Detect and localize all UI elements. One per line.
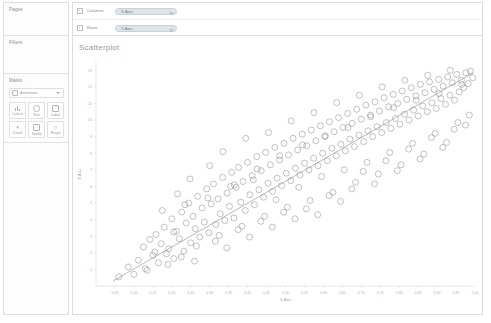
data-point [188, 240, 194, 246]
data-point [295, 147, 301, 153]
mark-type-dropdown[interactable]: Automatic [9, 88, 64, 98]
data-point [131, 271, 137, 277]
x-tick-label: 0.40 [244, 291, 251, 295]
data-point [431, 86, 437, 92]
data-point [356, 92, 362, 98]
marks-detail-button[interactable]: ▾ Detail [9, 121, 26, 138]
data-point [226, 203, 232, 209]
data-point [360, 169, 366, 175]
data-point [417, 81, 423, 87]
data-point [399, 88, 405, 94]
columns-shelf[interactable]: Columns X-Axis [73, 3, 482, 20]
data-point [205, 195, 211, 201]
data-point [330, 189, 336, 195]
data-point [267, 162, 273, 168]
data-point [165, 261, 171, 267]
data-point [206, 230, 212, 236]
columns-shelf-icon [77, 8, 83, 14]
marks-label-button[interactable]: Label [47, 102, 64, 119]
data-point [390, 91, 396, 97]
data-point [247, 234, 253, 240]
marks-panel-title: Marks [4, 74, 68, 84]
data-point [288, 118, 294, 124]
data-point [333, 153, 339, 159]
x-tick-label: 0.20 [168, 291, 175, 295]
data-point [159, 208, 165, 214]
data-point [265, 130, 271, 136]
data-point [397, 121, 403, 127]
data-point [383, 158, 389, 164]
x-tick-label: 0.60 [320, 291, 327, 295]
data-point [336, 115, 342, 121]
data-point [349, 186, 355, 192]
data-point [470, 75, 476, 81]
data-point [363, 102, 369, 108]
marks-size-button[interactable]: Size [28, 102, 45, 119]
x-tick-label: 0.05 [111, 291, 118, 295]
filters-panel[interactable]: Filters [4, 36, 68, 74]
marks-size-label: Size [33, 113, 40, 117]
marks-shape-button[interactable]: ◇ Shape [47, 121, 64, 138]
data-point [311, 110, 317, 116]
data-point [424, 109, 430, 115]
pill-y-axis-label: Y-Axis [121, 25, 132, 32]
data-point [402, 77, 408, 83]
data-point [463, 122, 469, 128]
data-point [204, 186, 210, 192]
rows-shelf[interactable]: Rows Y-Axis [73, 20, 482, 36]
data-point [444, 139, 450, 145]
data-point [420, 103, 426, 109]
marks-tooltip-button[interactable]: Tooltip [28, 121, 45, 138]
data-point [161, 224, 167, 230]
data-point [370, 134, 376, 140]
y-tick-label: 4 [90, 218, 92, 222]
data-point [178, 254, 184, 260]
x-tick-label: 0.70 [358, 291, 365, 295]
data-point [387, 149, 393, 155]
data-point [375, 171, 381, 177]
data-point [445, 74, 451, 80]
marks-card: Marks Automatic Colour Size Label [4, 74, 68, 143]
x-tick-label: 0.80 [396, 291, 403, 295]
x-tick-label: 0.65 [339, 291, 346, 295]
trend-line [113, 73, 473, 281]
pill-y-axis[interactable]: Y-Axis [115, 25, 177, 32]
data-point [228, 183, 234, 189]
plot-area[interactable]: 0.050.100.150.200.250.300.350.400.450.50… [73, 58, 482, 314]
data-point [301, 160, 307, 166]
detail-icon: ▾ [15, 124, 21, 130]
data-point [365, 128, 371, 134]
bottom-strip [0, 317, 491, 323]
scatterplot-svg[interactable]: 0.050.100.150.200.250.300.350.400.450.50… [73, 58, 484, 314]
data-point [421, 151, 427, 157]
pill-x-axis-label: X-Axis [121, 8, 133, 15]
data-point [417, 156, 423, 162]
data-point [263, 149, 269, 155]
data-point [270, 188, 276, 194]
data-point [425, 72, 431, 78]
data-point [347, 136, 353, 142]
data-point [272, 144, 278, 150]
data-point [238, 199, 244, 205]
automatic-mark-icon [12, 90, 18, 96]
colour-icon [15, 106, 21, 111]
pill-x-axis[interactable]: X-Axis [115, 8, 177, 15]
data-point [152, 249, 158, 255]
data-point [243, 135, 249, 141]
data-point [383, 120, 389, 126]
pages-panel[interactable]: Pages [4, 3, 68, 36]
data-point [311, 155, 317, 161]
data-point [326, 193, 332, 199]
data-point [181, 248, 187, 254]
data-point [406, 117, 412, 123]
data-point [319, 173, 325, 179]
data-point [220, 149, 226, 155]
x-tick-label: 0.85 [415, 291, 422, 295]
data-point [459, 81, 465, 87]
data-point [290, 135, 296, 141]
data-point [320, 150, 326, 156]
left-sidebar: Pages Filters Marks Automatic Colour Siz… [3, 2, 69, 315]
data-point [372, 181, 378, 187]
data-point [353, 179, 359, 185]
marks-colour-button[interactable]: Colour [9, 102, 26, 119]
